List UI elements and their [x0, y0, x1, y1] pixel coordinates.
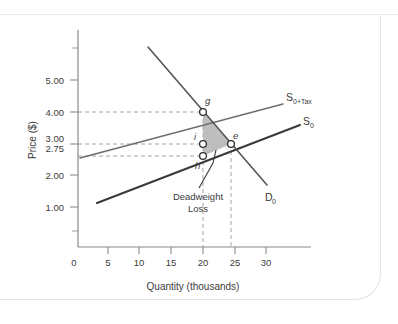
y-axis-title: Price ($) [27, 121, 38, 159]
deadweight-loss-label-line2: Loss [188, 203, 208, 214]
supply-demand-deadweight-loss-chart: 5.00 4.00 3.00 2.75 2.00 1.00 0 5 10 15 … [0, 0, 398, 324]
y-tick-label-2-00: 2.00 [46, 170, 65, 181]
y-tick-label-5-00: 5.00 [46, 75, 65, 86]
supply-label-sub: 0 [310, 122, 314, 129]
point-label-h: h [195, 160, 200, 171]
y-tick-label-2-75: 2.75 [46, 143, 65, 154]
x-tick-label-25: 25 [230, 257, 241, 268]
point-marker-g [200, 109, 207, 116]
axes [70, 30, 311, 254]
x-tick-labels: 0 5 10 15 20 25 30 [71, 257, 271, 268]
point-marker-h [200, 153, 207, 160]
curve-labels: S 0+Tax S 0 D 0 [265, 91, 314, 205]
demand-label-sub: 0 [272, 198, 276, 205]
x-axis-title: Quantity (thousands) [147, 281, 240, 292]
point-marker-e [228, 141, 235, 148]
supply-plus-tax-curve [80, 104, 283, 158]
supply-plus-tax-label-sub: 0+Tax [293, 98, 312, 105]
demand-curve [148, 47, 267, 185]
curves [80, 47, 300, 203]
supply-plus-tax-label: S [286, 91, 293, 103]
y-tick-label-1-00: 1.00 [46, 202, 65, 213]
x-tick-label-15: 15 [166, 257, 177, 268]
y-tick-labels: 5.00 4.00 3.00 2.75 2.00 1.00 [46, 75, 65, 213]
point-label-e: e [233, 130, 238, 141]
point-label-g: g [205, 95, 211, 106]
x-tick-label-5: 5 [105, 257, 110, 268]
point-marker-i [200, 141, 207, 148]
x-tick-label-0: 0 [71, 257, 76, 268]
point-label-i: i [194, 131, 197, 142]
deadweight-loss-label-line1: Deadweight [173, 191, 224, 202]
x-tick-label-20: 20 [198, 257, 209, 268]
x-tick-label-30: 30 [261, 257, 272, 268]
page-frame: 5.00 4.00 3.00 2.75 2.00 1.00 0 5 10 15 … [0, 0, 398, 324]
y-axis-ticks [70, 48, 78, 231]
y-tick-label-4-00: 4.00 [46, 107, 65, 118]
x-tick-label-10: 10 [134, 257, 145, 268]
x-axis-ticks [108, 247, 266, 254]
supply-label: S [303, 115, 310, 127]
